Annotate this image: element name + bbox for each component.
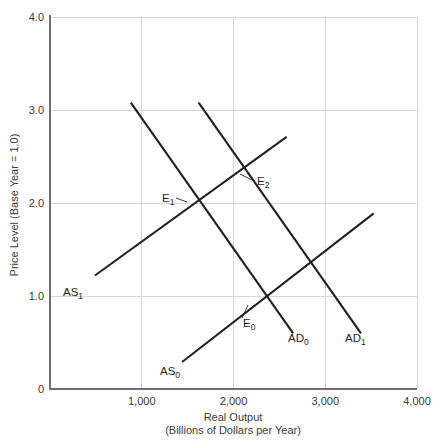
leader-e1 [176,198,187,202]
curves [95,103,374,362]
x-tick-label-4000: 4,000 [403,395,431,407]
y-tick-label-2: 2.0 [29,197,44,209]
curve-label-ad1: AD1 [345,332,366,347]
curve-label-as1: AS1 [63,286,83,301]
y-tick-label-4: 4.0 [29,11,44,23]
curve-label-as0: AS0 [160,365,180,380]
curve-ad0 [131,103,293,334]
x-tick-label-2000: 2,000 [220,395,248,407]
chart-svg: 4.0 3.0 2.0 1.0 0 1,000 2,000 3,000 4,00… [0,0,434,440]
x-tick-label-3000: 3,000 [311,395,339,407]
y-tick-label-0: 0 [38,383,44,395]
equilibrium-label-e0: E0 [243,317,256,332]
x-tick-label-1000: 1,000 [128,395,156,407]
y-tick-label-1: 1.0 [29,290,44,302]
curve-as1 [95,137,287,276]
curve-label-ad0: AD0 [288,332,309,347]
y-tick-label-3: 3.0 [29,104,44,116]
y-tick-labels: 4.0 3.0 2.0 1.0 0 [29,11,44,395]
x-tick-labels: 1,000 2,000 3,000 4,000 [128,395,431,407]
as-ad-chart-figure: 4.0 3.0 2.0 1.0 0 1,000 2,000 3,000 4,00… [0,0,434,440]
y-axis-title: Price Level (Base Year = 1.0) [8,134,20,277]
equilibrium-label-e1: E1 [162,192,175,207]
x-axis-title: Real Output [204,411,263,423]
curve-labels: AD0 AD1 AS0 AS1 [63,286,366,380]
curve-ad1 [199,103,361,334]
x-axis-subtitle: (Billions of Dollars per Year) [165,424,301,436]
